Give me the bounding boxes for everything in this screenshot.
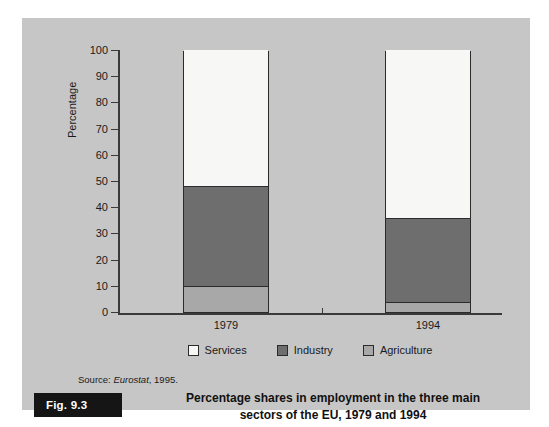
- y-tick-label: 20: [96, 254, 108, 265]
- y-tick-label: 10: [96, 280, 108, 291]
- y-tick-mark: [111, 155, 118, 156]
- y-tick-30: 30: [118, 233, 119, 234]
- x-axis-mid-tick: [322, 308, 323, 315]
- figure-caption: Percentage shares in employment in the t…: [134, 390, 532, 425]
- source-name: Eurostat: [113, 374, 148, 385]
- y-tick-label: 90: [96, 71, 108, 82]
- legend-item-industry[interactable]: Industry: [277, 344, 333, 356]
- bar-1979[interactable]: 1979: [183, 51, 269, 313]
- bar-segment-agriculture-1994[interactable]: [386, 302, 470, 312]
- y-tick-90: 90: [118, 76, 119, 77]
- y-tick-label: 40: [96, 202, 108, 213]
- y-tick-20: 20: [118, 260, 119, 261]
- x-axis-line: [118, 313, 502, 315]
- y-axis-title: Percentage: [66, 82, 78, 138]
- y-tick-label: 60: [96, 149, 108, 160]
- legend-item-services[interactable]: Services: [188, 344, 247, 356]
- y-tick-100: 100: [118, 50, 119, 51]
- y-tick-0: 0: [118, 312, 119, 313]
- y-tick-label: 0: [102, 307, 108, 318]
- y-axis-line: [118, 50, 120, 314]
- bar-segment-services-1994[interactable]: [386, 50, 470, 218]
- y-tick-mark: [111, 76, 118, 77]
- y-tick-40: 40: [118, 207, 119, 208]
- y-tick-70: 70: [118, 129, 119, 130]
- y-tick-label: 50: [96, 176, 108, 187]
- y-tick-mark: [111, 129, 118, 130]
- y-tick-mark: [111, 312, 118, 313]
- source-prefix: Source:: [78, 374, 111, 385]
- bar-1994[interactable]: 1994: [385, 51, 471, 313]
- bar-segment-services-1979[interactable]: [184, 50, 268, 186]
- bar-segment-industry-1979[interactable]: [184, 186, 268, 286]
- y-tick-label: 100: [90, 45, 108, 56]
- source-line: Source: Eurostat, 1995.: [78, 374, 178, 385]
- legend-item-agriculture[interactable]: Agriculture: [363, 344, 433, 356]
- figure-number-tag: Fig. 9.3: [34, 393, 122, 417]
- y-tick-80: 80: [118, 102, 119, 103]
- legend-swatch-industry: [277, 345, 288, 356]
- x-axis-label-1994: 1994: [386, 319, 470, 331]
- y-tick-mark: [111, 286, 118, 287]
- y-tick-mark: [111, 207, 118, 208]
- bar-segment-agriculture-1979[interactable]: [184, 286, 268, 312]
- caption-line-2: sectors of the EU, 1979 and 1994: [134, 407, 532, 424]
- legend-swatch-services: [188, 345, 199, 356]
- legend-swatch-agriculture: [363, 345, 374, 356]
- y-tick-mark: [111, 102, 118, 103]
- chart-legend: ServicesIndustryAgriculture: [118, 344, 502, 356]
- y-tick-50: 50: [118, 181, 119, 182]
- y-tick-mark: [111, 233, 118, 234]
- figure-number-label: Fig. 9.3: [34, 399, 87, 411]
- bar-segment-industry-1994[interactable]: [386, 218, 470, 302]
- caption-line-1: Percentage shares in employment in the t…: [134, 390, 532, 407]
- legend-label-services: Services: [205, 344, 247, 356]
- source-suffix: , 1995.: [149, 374, 178, 385]
- y-tick-label: 70: [96, 123, 108, 134]
- legend-label-industry: Industry: [294, 344, 333, 356]
- y-tick-10: 10: [118, 286, 119, 287]
- y-tick-label: 80: [96, 97, 108, 108]
- y-tick-mark: [111, 50, 118, 51]
- x-axis-label-1979: 1979: [184, 319, 268, 331]
- plot-area: 0102030405060708090100 19791994: [118, 51, 502, 313]
- figure-panel: Percentage 0102030405060708090100 197919…: [22, 18, 530, 410]
- y-tick-60: 60: [118, 155, 119, 156]
- legend-label-agriculture: Agriculture: [380, 344, 433, 356]
- y-tick-mark: [111, 181, 118, 182]
- figure-root: Percentage 0102030405060708090100 197919…: [0, 0, 549, 427]
- y-tick-mark: [111, 260, 118, 261]
- y-tick-label: 30: [96, 228, 108, 239]
